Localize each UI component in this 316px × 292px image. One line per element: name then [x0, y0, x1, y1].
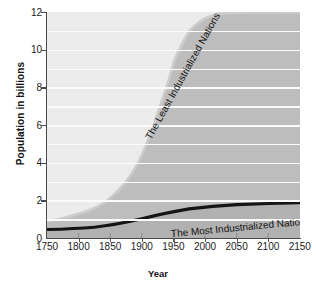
x-tick-2100 [268, 238, 269, 242]
y-tick-8 [41, 87, 46, 88]
x-axis-title: Year [0, 268, 316, 279]
y-axis-title: Population in billions [15, 34, 26, 194]
gridline-3 [47, 182, 300, 184]
gridline-11 [47, 31, 300, 33]
gridline-9 [47, 69, 300, 71]
gridline-6 [47, 125, 300, 127]
y-tick-label-8: 8 [24, 82, 42, 93]
x-tick-1950 [173, 238, 174, 242]
gridline-5 [47, 144, 300, 146]
gridline-10 [47, 50, 300, 52]
gridline-2 [47, 200, 300, 202]
y-tick-10 [41, 50, 46, 51]
x-tick-1800 [79, 238, 80, 242]
y-tick-label-2: 2 [24, 195, 42, 206]
x-tick-1900 [142, 238, 143, 242]
plot-area: The Least Industrialized Nations The Mos… [47, 12, 300, 238]
population-growth-chart: Population in billions [0, 0, 316, 292]
x-tick-2050 [237, 238, 238, 242]
y-tick-4 [41, 163, 46, 164]
gridline-7 [47, 106, 300, 108]
y-tick-12 [41, 12, 46, 13]
y-tick-2 [41, 200, 46, 201]
y-tick-6 [41, 125, 46, 126]
x-tick-1850 [110, 238, 111, 242]
x-tick-label-2150: 2150 [280, 241, 316, 252]
y-tick-label-12: 12 [18, 7, 42, 18]
y-tick-label-4: 4 [24, 157, 42, 168]
y-tick-label-10: 10 [18, 44, 42, 55]
gridline-4 [47, 163, 300, 165]
y-tick-label-6: 6 [24, 120, 42, 131]
x-tick-2000 [205, 238, 206, 242]
